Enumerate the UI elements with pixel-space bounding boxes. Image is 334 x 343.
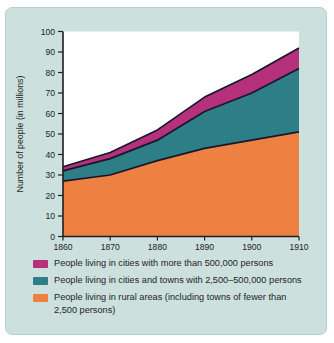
legend-label: People living in rural areas (including … — [54, 291, 305, 316]
stacked-area-chart: 0102030405060708090100186018701880189019… — [6, 8, 326, 254]
legend-swatch — [33, 260, 48, 268]
y-tick-label: 50 — [45, 129, 55, 139]
x-tick-label: 1860 — [53, 242, 72, 252]
legend-swatch — [33, 294, 48, 302]
x-tick-label: 1900 — [242, 242, 261, 252]
y-tick-label: 40 — [45, 150, 55, 160]
y-tick-label: 60 — [45, 109, 55, 119]
x-tick-label: 1890 — [195, 242, 214, 252]
x-tick-label: 1880 — [148, 242, 167, 252]
x-tick-label: 1910 — [289, 242, 308, 252]
legend-label: People living in cities and towns with 2… — [54, 274, 302, 287]
y-tick-label: 80 — [45, 68, 55, 78]
y-tick-label: 100 — [41, 27, 56, 37]
y-tick-label: 10 — [45, 211, 55, 221]
x-tick-label: 1870 — [101, 242, 120, 252]
y-axis-title: Number of people (in millions) — [15, 76, 25, 193]
chart-legend: People living in cities with more than 5… — [33, 257, 305, 321]
legend-item: People living in rural areas (including … — [33, 291, 305, 316]
y-tick-label: 90 — [45, 47, 55, 57]
y-tick-label: 20 — [45, 191, 55, 201]
y-tick-label: 70 — [45, 88, 55, 98]
y-tick-label: 30 — [45, 170, 55, 180]
legend-item: People living in cities and towns with 2… — [33, 274, 305, 287]
y-tick-label: 0 — [50, 232, 55, 242]
legend-item: People living in cities with more than 5… — [33, 257, 305, 270]
legend-label: People living in cities with more than 5… — [54, 257, 273, 270]
figure-panel: 0102030405060708090100186018701880189019… — [5, 7, 327, 335]
legend-swatch — [33, 277, 48, 285]
